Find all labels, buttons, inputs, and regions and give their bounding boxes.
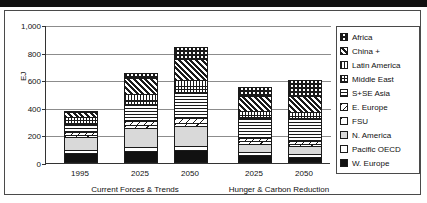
y-axis-tick-label: 1,000 [21, 22, 41, 31]
bold-diagonal-swatch [340, 47, 348, 55]
legend-item[interactable]: Africa [340, 30, 416, 44]
y-axis-tick-label: 800 [28, 49, 41, 58]
bar-segment [175, 60, 207, 81]
legend-item[interactable]: E. Europe [340, 100, 416, 114]
legend-item[interactable]: Pacific OECD [340, 142, 416, 156]
bar-segment [175, 94, 207, 118]
legend-item[interactable]: Middle East [340, 72, 416, 86]
bar-segment [239, 119, 271, 139]
legend-item-label: Latin America [352, 61, 400, 70]
fine-grid-swatch [340, 75, 348, 83]
bar-segment [239, 88, 271, 97]
legend-item-label: E. Europe [352, 103, 388, 112]
bar-segment [289, 97, 321, 113]
top-black-band [0, 0, 427, 7]
chart-screenshot: EJ 02004006008001,000 199520252050202520… [0, 0, 427, 203]
bar-segment [125, 79, 157, 95]
legend-item[interactable]: N. America [340, 128, 416, 142]
solid-black-swatch [340, 159, 348, 167]
bar-segment [125, 106, 157, 122]
legend-item-label: FSU [352, 117, 368, 126]
bar-segment [175, 81, 207, 88]
bar-segment [125, 129, 157, 149]
stacked-bar[interactable] [288, 80, 322, 163]
legend-item[interactable]: China + [340, 44, 416, 58]
stacked-bar[interactable] [238, 87, 272, 163]
stacked-bar[interactable] [174, 47, 208, 163]
horizontal-lines-swatch [340, 89, 348, 97]
chart-legend: AfricaChina +Latin AmericaMiddle EastS+S… [336, 26, 420, 174]
bar-segment [239, 156, 271, 162]
bar-segment [175, 87, 207, 94]
x-axis-tick-label: 2025 [229, 169, 279, 178]
legend-item-label: China + [352, 47, 380, 56]
narrow-diagonal-swatch [340, 103, 348, 111]
stacked-bar[interactable] [124, 73, 158, 163]
bar-segment [65, 138, 97, 151]
y-axis-tick-label: 0 [37, 160, 41, 169]
y-axis-tick-label: 400 [28, 104, 41, 113]
bar-segment [289, 147, 321, 155]
legend-item-label: N. America [352, 131, 391, 140]
bar-segment [175, 48, 207, 60]
y-axis-tick [42, 164, 46, 165]
bar-segment [175, 127, 207, 147]
y-axis-tick [42, 136, 46, 137]
plot-area: 02004006008001,000 [45, 26, 330, 164]
legend-item[interactable]: W. Europe [340, 156, 416, 170]
bar-segment [289, 120, 321, 142]
legend-item[interactable]: FSU [340, 114, 416, 128]
x-axis-group-label: Current Forces & Trends [91, 185, 179, 194]
legend-item-label: S+SE Asia [352, 89, 390, 98]
y-axis-tick [42, 26, 46, 27]
bar-segment [239, 145, 271, 153]
bar-segment [289, 158, 321, 162]
x-axis-group-label: Hunger & Carbon Reduction [229, 185, 330, 194]
checkerboard-swatch [340, 33, 348, 41]
legend-item-label: W. Europe [352, 159, 389, 168]
y-axis-tick [42, 54, 46, 55]
wide-diagonal-swatch [340, 117, 348, 125]
bar-segment [175, 151, 207, 162]
y-axis-title: EJ [19, 72, 28, 81]
x-axis-tick-label: 2025 [115, 169, 165, 178]
x-axis-tick-label: 2050 [165, 169, 215, 178]
white-swatch [340, 145, 348, 153]
y-axis-tick [42, 109, 46, 110]
x-axis-tick-label: 1995 [55, 169, 105, 178]
y-axis-tick-label: 600 [28, 77, 41, 86]
bar-segment [125, 152, 157, 162]
legend-item[interactable]: S+SE Asia [340, 86, 416, 100]
legend-item-label: Pacific OECD [352, 145, 401, 154]
x-axis-tick-label: 2050 [279, 169, 329, 178]
stacked-bar[interactable] [64, 111, 98, 163]
bar-segment [289, 81, 321, 96]
bar-segment [65, 154, 97, 162]
y-axis-tick [42, 81, 46, 82]
figure-frame: EJ 02004006008001,000 199520252050202520… [4, 10, 421, 195]
legend-item-label: Middle East [352, 75, 394, 84]
legend-item[interactable]: Latin America [340, 58, 416, 72]
light-gray-swatch [340, 131, 348, 139]
legend-item-label: Africa [352, 33, 372, 42]
gridline [46, 26, 331, 27]
vertical-lines-swatch [340, 61, 348, 69]
bar-segment [65, 125, 97, 133]
y-axis-tick-label: 200 [28, 132, 41, 141]
bar-segment [239, 97, 271, 112]
